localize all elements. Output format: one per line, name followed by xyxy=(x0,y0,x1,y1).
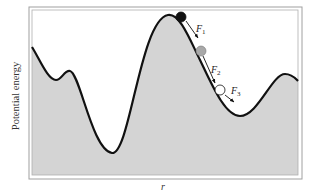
ball-1-black xyxy=(176,12,186,22)
x-axis-label: r xyxy=(161,181,165,192)
ball-3-white xyxy=(215,85,225,95)
diagram-canvas: F1 F2 F3 xyxy=(0,0,316,193)
ball-2-gray xyxy=(196,46,206,56)
potential-energy-diagram: F1 F2 F3 Potential energy r xyxy=(0,0,316,193)
y-axis-label: Potential energy xyxy=(10,62,21,130)
